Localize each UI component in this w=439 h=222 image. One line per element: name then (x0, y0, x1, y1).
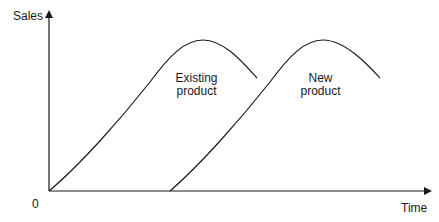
existing-product-label: Existing product (174, 72, 219, 98)
new-product-label-line2: product (298, 85, 343, 98)
existing-product-label-line2: product (174, 85, 219, 98)
new-product-label: New product (298, 72, 343, 98)
existing-product-curve (49, 40, 257, 191)
x-axis-label: Time (401, 202, 427, 215)
product-lifecycle-chart (0, 0, 439, 222)
y-axis-label: Sales (13, 10, 43, 23)
origin-label: 0 (32, 198, 39, 211)
new-product-curve (170, 40, 380, 191)
